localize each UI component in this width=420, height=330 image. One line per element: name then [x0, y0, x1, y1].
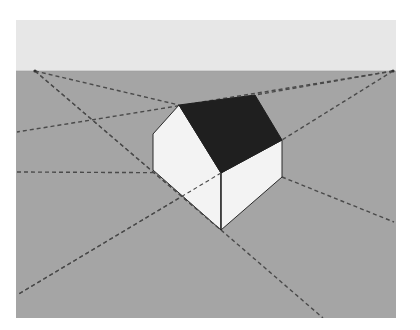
right-vanishing-point — [391, 69, 394, 72]
left-vanishing-point — [33, 69, 36, 72]
perspective-drawing — [0, 0, 420, 330]
sky-area — [16, 20, 396, 71]
